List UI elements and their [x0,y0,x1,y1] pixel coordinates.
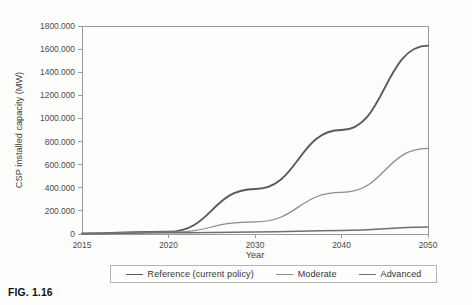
legend-label: Advanced [381,269,422,279]
y-tick-label: 400.000 [45,183,76,193]
x-axis-title: Year [246,250,265,260]
legend-line-swatch [359,274,376,275]
line-chart-svg: 0200.000400.000600.000800.0001000.000120… [0,0,472,260]
legend-line-swatch [276,274,293,275]
y-axis-ticks: 0200.000400.000600.000800.0001000.000120… [40,21,82,239]
legend-label: Moderate [298,269,337,279]
y-tick-label: 200.000 [45,206,76,216]
series-lines [82,46,428,234]
y-tick-label: 1800.000 [40,21,75,31]
legend-label: Reference (current policy) [148,269,254,279]
y-tick-label: 1400.000 [40,67,75,77]
y-tick-label: 600.000 [45,160,76,170]
y-axis-title: CSP installed capacity (MW) [14,72,24,188]
series-line-reference [82,46,428,234]
x-tick-label: 2040 [332,240,351,250]
y-tick-label: 1600.000 [40,44,75,54]
chart-plot-area: 0200.000400.000600.000800.0001000.000120… [0,0,472,260]
y-tick-label: 800.000 [45,137,76,147]
legend-entry[interactable]: Reference (current policy) [126,269,254,279]
series-line-moderate [82,148,428,233]
x-tick-label: 2030 [246,240,265,250]
y-tick-label: 1000.000 [40,113,75,123]
chart-legend: Reference (current policy)ModerateAdvanc… [110,265,437,283]
x-axis-ticks: 20152020203020402050 [73,234,438,250]
y-tick-label: 0 [70,229,75,239]
series-line-advanced [82,227,428,234]
legend-entry[interactable]: Advanced [359,269,422,279]
x-tick-label: 2050 [419,240,438,250]
legend-entry[interactable]: Moderate [276,269,337,279]
y-tick-label: 1200.000 [40,90,75,100]
legend-line-swatch [126,274,143,275]
x-tick-label: 2015 [73,240,92,250]
figure-caption: FIG. 1.16 [8,286,53,298]
figure-container: 0200.000400.000600.000800.0001000.000120… [0,0,472,305]
x-tick-label: 2020 [159,240,178,250]
